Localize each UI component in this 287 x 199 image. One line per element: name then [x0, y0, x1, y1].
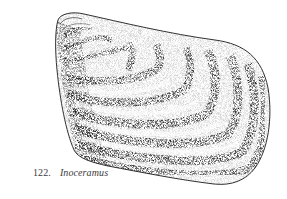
figure-plate: 122.Inoceramus — [0, 0, 287, 199]
figure-caption: 122.Inoceramus — [33, 167, 108, 178]
figure-title: Inoceramus — [60, 167, 108, 178]
figure-number: 122. — [33, 167, 51, 178]
